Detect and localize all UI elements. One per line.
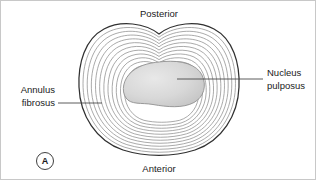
- label-annulus-fibrosus-line2: fibrosus: [22, 97, 56, 108]
- label-posterior: Posterior: [140, 8, 178, 19]
- label-nucleus-pulposus-line1: Nucleus: [267, 67, 302, 78]
- panel-letter-text: A: [42, 156, 49, 166]
- panel-letter-badge: A: [37, 153, 54, 170]
- label-anterior: Anterior: [142, 163, 175, 174]
- disc-cross-section-diagram: Posterior Anterior Annulus fibrosus Nucl…: [1, 1, 316, 180]
- label-nucleus-pulposus-line2: pulposus: [267, 80, 305, 91]
- label-annulus-fibrosus-line1: Annulus: [21, 84, 56, 95]
- figure-container: Posterior Anterior Annulus fibrosus Nucl…: [0, 0, 316, 180]
